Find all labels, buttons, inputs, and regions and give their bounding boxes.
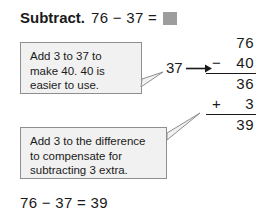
callout-line: subtracting 3 extra. — [30, 163, 158, 178]
page-title-label: Subtract. — [20, 8, 85, 27]
callout-box-compensate: Add 3 to the difference to compensate fo… — [20, 127, 167, 179]
calc-row: − 40 — [206, 53, 256, 74]
callout-line: Add 3 to the difference — [30, 134, 158, 149]
callout-line: easier to use. — [30, 78, 133, 93]
calc-number: 76 — [236, 33, 254, 53]
calc-row: 39 — [206, 115, 256, 135]
worksheet-page: Subtract. 76 − 37 = Add 3 to 37 to make … — [0, 0, 269, 224]
calc-number: 39 — [236, 115, 254, 135]
callout-line: to compensate for — [30, 149, 158, 164]
calc-row: 76 — [206, 33, 256, 53]
calc-row: 36 — [206, 74, 256, 94]
callout-line: make 40. 40 is — [30, 64, 133, 79]
calc-number: 36 — [236, 74, 254, 94]
calc-row: + 3 — [206, 94, 256, 115]
page-title: Subtract. 76 − 37 = — [20, 8, 177, 27]
calc-operator: + — [212, 94, 221, 114]
vertical-computation: 76 − 40 36 + 3 39 — [206, 33, 256, 135]
callout-2-tail-icon — [167, 113, 200, 140]
calc-number: 40 — [236, 53, 254, 73]
callout-line: Add 3 to 37 to — [30, 49, 133, 64]
callout-1-tail-icon — [141, 72, 163, 87]
page-title-expression: 76 − 37 = — [91, 8, 157, 27]
middle-term: 37 — [166, 59, 183, 77]
result-equation: 76 − 37 = 39 — [20, 193, 108, 212]
calc-number: 3 — [245, 94, 254, 114]
callout-box-add-three: Add 3 to 37 to make 40. 40 is easier to … — [20, 42, 142, 94]
gray-answer-box-icon — [163, 12, 177, 25]
calc-operator: − — [212, 53, 221, 73]
